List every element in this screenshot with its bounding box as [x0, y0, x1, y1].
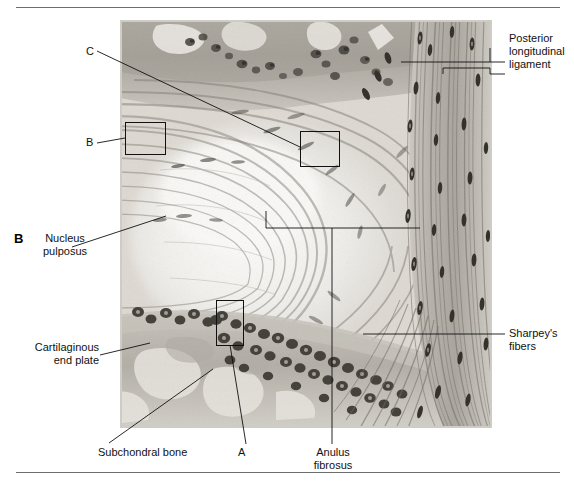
- figure-panel-b: B C B A Posterior longitudinal ligament …: [0, 0, 574, 484]
- histology-micrograph-image: [120, 20, 492, 428]
- roi-marker-a: A: [238, 446, 245, 458]
- label-anulus-fibrosus: Anulus fibrosus: [302, 446, 364, 472]
- label-subchondral-bone: Subchondral bone: [98, 446, 187, 459]
- label-cartilaginous-end-plate: Cartilaginous end plate: [5, 341, 99, 367]
- label-sharpeys-fibers: Sharpey's fibers: [509, 327, 558, 353]
- roi-marker-b: B: [86, 136, 93, 148]
- roi-marker-c: C: [86, 45, 94, 57]
- label-posterior-longitudinal-ligament: Posterior longitudinal ligament: [509, 32, 565, 71]
- panel-letter-b: B: [14, 231, 23, 246]
- bottom-divider-rule: [16, 472, 560, 473]
- label-nucleus-pulposus: Nucleus pulposus: [30, 232, 100, 258]
- top-divider-rule: [16, 7, 560, 8]
